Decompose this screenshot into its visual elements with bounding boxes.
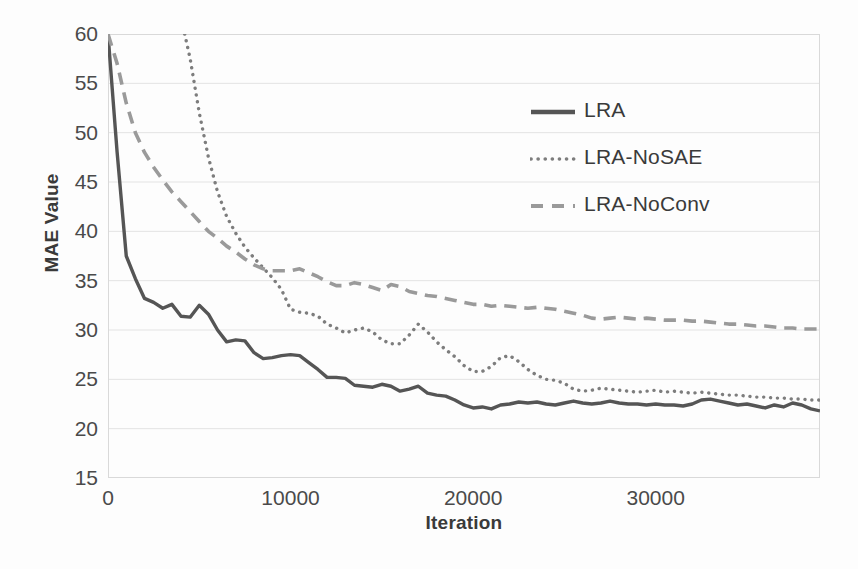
legend-item[interactable]: LRA: [530, 86, 790, 133]
legend-label: LRA-NoSAE: [584, 145, 703, 169]
y-tick-label: 40: [38, 219, 98, 243]
legend-label: LRA-NoConv: [584, 192, 710, 216]
x-axis-title: Iteration: [108, 512, 820, 534]
x-tick-label: 10000: [231, 486, 351, 510]
legend-swatch-dotted-icon: [530, 151, 576, 163]
y-tick-label: 55: [38, 71, 98, 95]
chart-legend: LRALRA-NoSAELRA-NoConv: [530, 86, 790, 227]
y-tick-label: 50: [38, 121, 98, 145]
legend-item[interactable]: LRA-NoSAE: [530, 133, 790, 180]
x-tick-label: 0: [48, 486, 168, 510]
y-tick-label: 35: [38, 269, 98, 293]
y-tick-label: 20: [38, 417, 98, 441]
y-tick-label: 45: [38, 170, 98, 194]
legend-swatch-dashed-icon: [530, 198, 576, 210]
x-tick-label: 20000: [413, 486, 533, 510]
y-tick-label: 60: [38, 22, 98, 46]
legend-label: LRA: [584, 98, 625, 122]
x-tick-label: 30000: [596, 486, 716, 510]
y-tick-label: 25: [38, 367, 98, 391]
legend-swatch-solid-icon: [530, 104, 576, 116]
chart-figure: MAE Value Iteration 15202530354045505560…: [0, 0, 858, 569]
legend-item[interactable]: LRA-NoConv: [530, 180, 790, 227]
y-tick-label: 30: [38, 318, 98, 342]
